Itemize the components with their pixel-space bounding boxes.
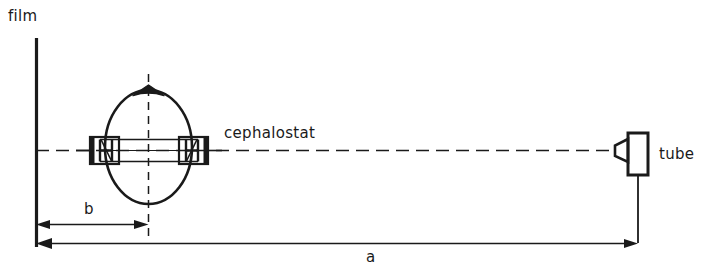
cephalostat-label: cephalostat	[224, 124, 315, 142]
dimension-b-right-arrowhead	[134, 220, 149, 229]
tube-housing-body	[628, 133, 648, 175]
right-ear-rod-endplate	[204, 137, 209, 164]
film-label: film	[8, 7, 37, 25]
dimension-a-label: a	[366, 248, 375, 266]
dimension-a-group: a	[36, 238, 638, 266]
tube-label: tube	[659, 145, 694, 163]
dimension-a-left-arrowhead	[36, 238, 52, 249]
left-ear-rod-endplate	[90, 137, 95, 164]
dimension-a-right-arrowhead	[624, 239, 638, 248]
dimension-b-group: b	[36, 200, 149, 229]
tube-collimator-cone	[615, 139, 628, 162]
xray-tube-group	[615, 133, 648, 243]
diagram-canvas: film	[0, 0, 709, 280]
cephalometry-diagram: film	[0, 0, 709, 280]
dimension-b-label: b	[84, 200, 94, 218]
